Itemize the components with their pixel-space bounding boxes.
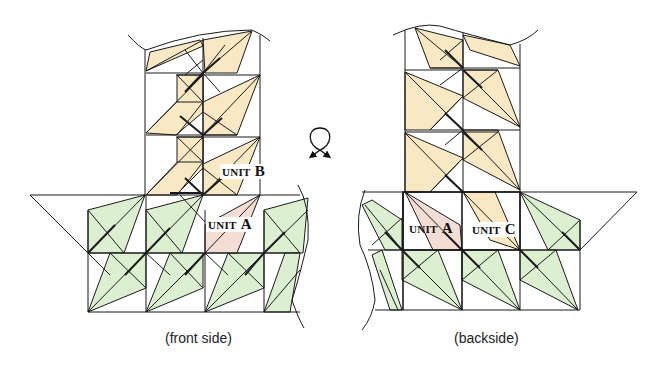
unit-c-letter: C [505,221,516,237]
unit-c-label-back: UNITC [470,222,518,237]
unit-b-letter: B [255,163,265,179]
front-side-caption: (front side) [165,330,232,346]
backside-caption: (backside) [454,330,519,346]
unit-b-prefix: UNIT [222,166,251,178]
front-side-diagram [30,30,308,328]
unit-a-letter: A [241,216,252,232]
unit-a-label-front: UNITA [206,217,254,232]
origami-tessellation-diagram [0,0,663,368]
unit-a-letter: A [442,220,453,236]
back-side-diagram [358,25,637,330]
turn-over-icon [310,128,330,156]
unit-c-prefix: UNIT [472,224,501,236]
unit-a-prefix: UNIT [409,223,438,235]
unit-b-label-front: UNITB [220,164,267,179]
back-lower-band [362,192,580,310]
unit-a-label-back: UNITA [407,221,455,236]
unit-a-prefix: UNIT [208,219,237,231]
